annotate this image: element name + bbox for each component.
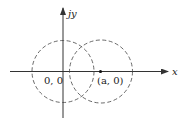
y-axis-label: jy <box>66 8 77 19</box>
point-a-marker <box>99 70 102 73</box>
x-axis-label: x <box>172 66 178 77</box>
origin-label: 0, 0 <box>44 75 63 86</box>
diagram-canvas: jy x 0, 0 (a, 0) <box>0 0 190 123</box>
point-a-label: (a, 0) <box>97 75 124 86</box>
